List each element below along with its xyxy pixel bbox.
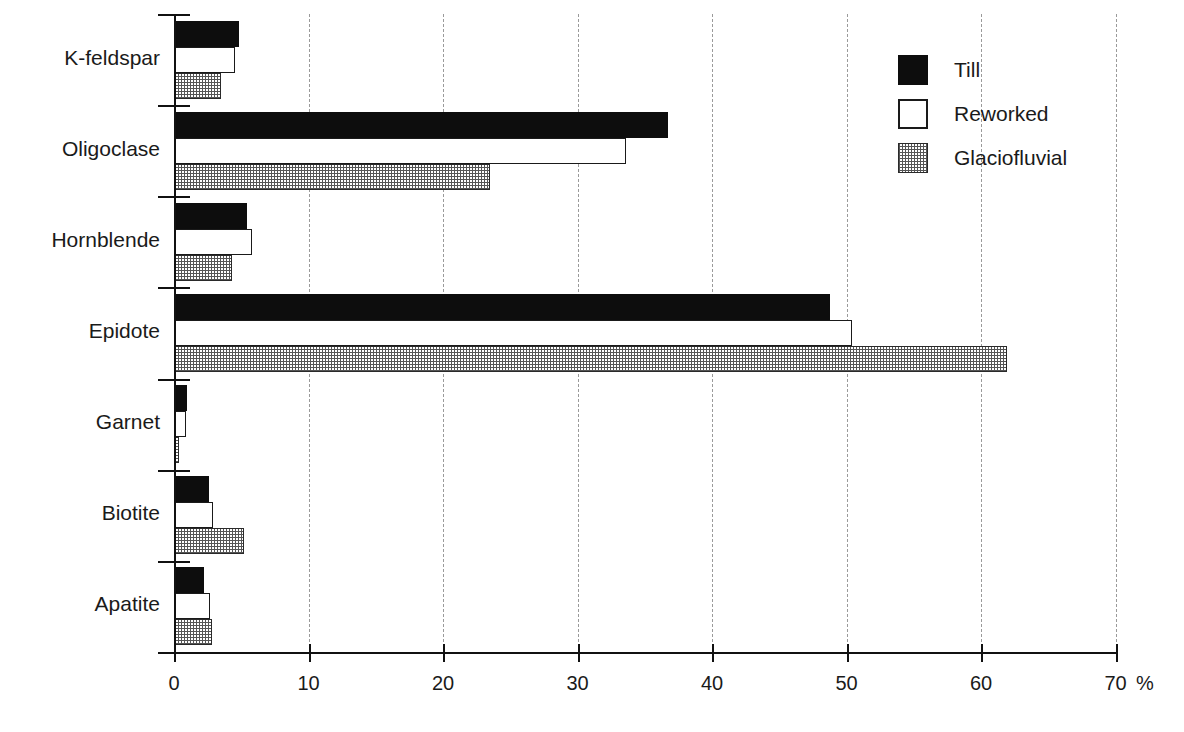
bar-oligoclase-till [174, 112, 668, 138]
x-tick-10 [309, 644, 311, 662]
bar-apatite-glaciofluvial [174, 619, 212, 645]
bar-apatite-reworked [174, 593, 210, 619]
bar-k-feldspar-glaciofluvial [174, 73, 221, 99]
x-tick-label-50: 50 [817, 672, 877, 695]
bar-garnet-till [174, 385, 187, 411]
x-tick-label-40: 40 [682, 672, 742, 695]
category-label-epidote: Epidote [0, 319, 160, 343]
bar-epidote-reworked [174, 320, 852, 346]
legend-item-glaciofluvial: Glaciofluvial [898, 136, 1067, 180]
solid-black-swatch [898, 55, 928, 85]
legend-label-reworked: Reworked [954, 102, 1049, 126]
x-tick-70 [1116, 644, 1118, 662]
category-label-apatite: Apatite [0, 592, 160, 616]
legend-item-till: Till [898, 48, 1067, 92]
x-tick-label-30: 30 [548, 672, 608, 695]
category-label-hornblende: Hornblende [0, 228, 160, 252]
bar-biotite-till [174, 476, 209, 502]
x-tick-40 [712, 644, 714, 662]
category-label-oligoclase: Oligoclase [0, 137, 160, 161]
bar-biotite-glaciofluvial [174, 528, 244, 554]
x-tick-30 [578, 644, 580, 662]
x-axis-unit-label: % [1136, 672, 1154, 695]
x-tick-label-10: 10 [279, 672, 339, 695]
x-tick-60 [981, 644, 983, 662]
bar-hornblende-reworked [174, 229, 252, 255]
bar-k-feldspar-reworked [174, 47, 235, 73]
bar-oligoclase-reworked [174, 138, 626, 164]
gridline-70 [1116, 14, 1117, 652]
y-axis-line [174, 14, 176, 653]
category-label-biotite: Biotite [0, 501, 160, 525]
bar-k-feldspar-till [174, 21, 239, 47]
x-axis-line [174, 652, 1116, 654]
legend: TillReworkedGlaciofluvial [898, 48, 1067, 180]
bar-epidote-glaciofluvial [174, 346, 1007, 372]
x-tick-0 [174, 644, 176, 662]
checkered-gray-swatch [898, 143, 928, 173]
bar-apatite-till [174, 567, 204, 593]
bar-oligoclase-glaciofluvial [174, 164, 490, 190]
legend-label-till: Till [954, 58, 980, 82]
bar-epidote-till [174, 294, 830, 320]
bar-chart: K-feldsparOligoclaseHornblendeEpidoteGar… [0, 0, 1184, 732]
category-label-k-feldspar: K-feldspar [0, 46, 160, 70]
white-outline-swatch [898, 99, 928, 129]
x-tick-label-20: 20 [413, 672, 473, 695]
legend-item-reworked: Reworked [898, 92, 1067, 136]
x-tick-label-0: 0 [144, 672, 204, 695]
bar-hornblende-glaciofluvial [174, 255, 232, 281]
bar-hornblende-till [174, 203, 247, 229]
legend-label-glaciofluvial: Glaciofluvial [954, 146, 1067, 170]
x-tick-20 [443, 644, 445, 662]
x-tick-label-60: 60 [951, 672, 1011, 695]
bar-biotite-reworked [174, 502, 213, 528]
category-label-garnet: Garnet [0, 410, 160, 434]
x-tick-50 [847, 644, 849, 662]
